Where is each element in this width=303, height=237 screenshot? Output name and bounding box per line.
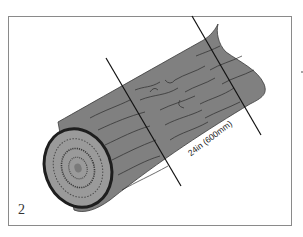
log-illustration [0, 0, 303, 237]
stray-mark [301, 71, 303, 73]
figure-number: 2 [18, 202, 25, 218]
